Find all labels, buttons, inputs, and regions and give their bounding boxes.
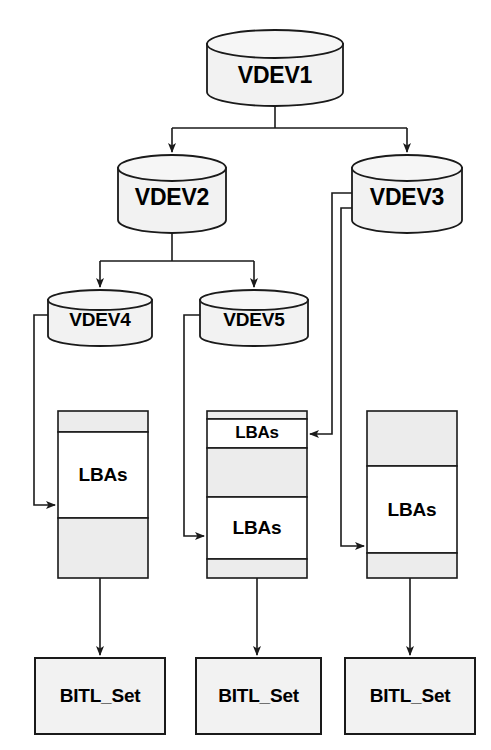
connector-vdev4-to-column-left xyxy=(34,315,55,505)
cylinder-vdev2[interactable] xyxy=(118,155,226,233)
diagram-vector-layer xyxy=(0,0,491,750)
box-bitl-right[interactable] xyxy=(345,658,475,734)
cylinder-vdev1[interactable] xyxy=(207,30,343,106)
box-bitl-middle[interactable] xyxy=(196,658,321,734)
diagram-canvas: VDEV1 VDEV2 VDEV3 VDEV4 VDEV5 LBAs LBAs … xyxy=(0,0,491,750)
cylinder-vdev5[interactable] xyxy=(200,290,308,346)
box-bitl-left[interactable] xyxy=(35,658,165,734)
cylinder-vdev3[interactable] xyxy=(352,155,462,233)
connector-vdev3-to-column-middle-top xyxy=(310,193,352,434)
column-middle[interactable] xyxy=(207,411,307,578)
connector-vdev3-to-column-right xyxy=(341,208,364,546)
column-right[interactable] xyxy=(367,411,457,578)
cylinder-vdev4[interactable] xyxy=(48,290,152,346)
connector-vdev5-to-column-middle xyxy=(184,315,204,536)
column-left[interactable] xyxy=(58,411,148,578)
